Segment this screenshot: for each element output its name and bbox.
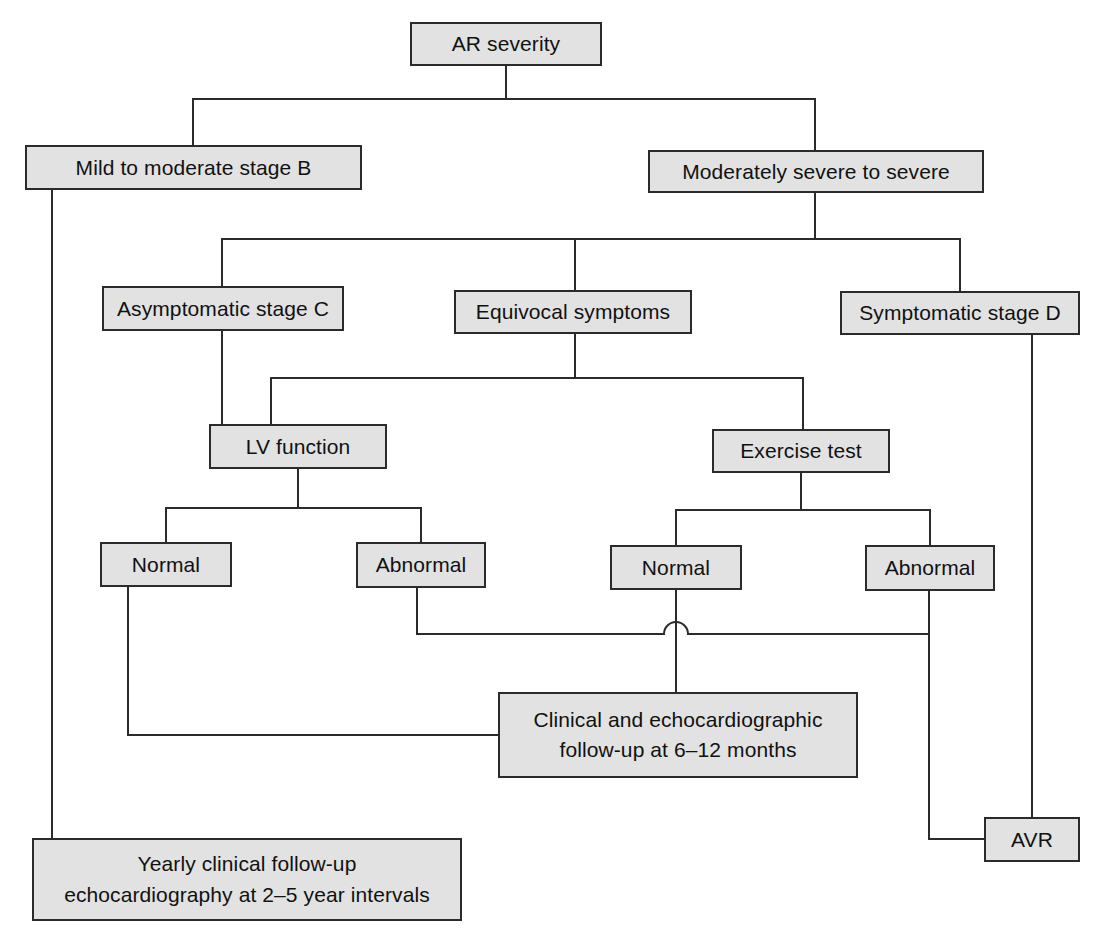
edge-line-hop [664,622,688,634]
node-exercise-test[interactable]: Exercise test [712,429,890,473]
node-moderately-severe[interactable]: Moderately severe to severe [648,150,984,193]
edge-ar-to-split [193,66,815,150]
node-label: Exercise test [740,437,862,465]
node-label: Normal [642,554,710,582]
edge-ex-abnormal-to-avr [929,591,984,839]
edge-lv-to-children [166,469,421,542]
flowchart-diagram: AR severityMild to moderate stage BModer… [0,0,1109,944]
node-symptomatic-d[interactable]: Symptomatic stage D [840,291,1080,335]
node-label: LV function [246,433,351,461]
node-label: Asymptomatic stage C [117,295,329,323]
node-label: Moderately severe to severe [682,158,950,186]
flowchart-edges [0,0,1109,944]
edge-lv-normal-to-followup [128,587,498,735]
edge-exercise-to-children [676,473,930,545]
node-ar-severity[interactable]: AR severity [410,22,602,66]
edge-moderate-to-level3-bus [222,193,960,291]
node-mild-moderate-b[interactable]: Mild to moderate stage B [25,145,362,190]
node-clinical-followup[interactable]: Clinical and echocardiographic follow-up… [498,692,858,778]
edge-lv-abnormal-to-followup [417,588,929,634]
node-label: Normal [132,551,200,579]
node-lv-function[interactable]: LV function [209,424,387,469]
node-label: Equivocal symptoms [476,298,670,326]
node-label: Symptomatic stage D [859,299,1060,327]
node-label: AR severity [452,30,560,58]
node-asymptomatic-c[interactable]: Asymptomatic stage C [102,286,344,331]
node-avr[interactable]: AVR [984,817,1080,862]
node-label: Mild to moderate stage B [76,154,312,182]
node-label: Abnormal [885,554,976,582]
node-equivocal-symptoms[interactable]: Equivocal symptoms [454,290,692,334]
node-label: Clinical and echocardiographic follow-up… [533,705,822,766]
node-label: Abnormal [376,551,467,579]
node-label: AVR [1011,826,1053,854]
edge-equivocal-to-level4-bus [271,334,803,429]
node-lv-normal[interactable]: Normal [100,542,232,587]
node-lv-abnormal[interactable]: Abnormal [356,542,486,588]
node-label: Yearly clinical follow-up echocardiograp… [64,849,430,910]
node-ex-abnormal[interactable]: Abnormal [865,545,995,591]
node-yearly-followup[interactable]: Yearly clinical follow-up echocardiograp… [32,838,462,921]
node-ex-normal[interactable]: Normal [610,545,742,590]
